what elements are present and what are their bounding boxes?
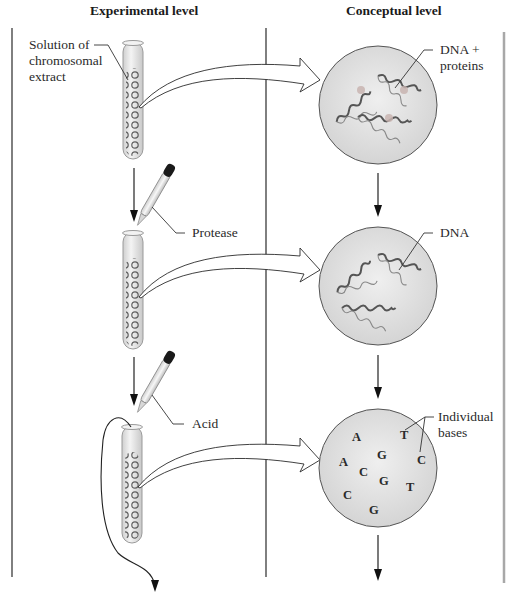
base-letter: G [377, 448, 387, 463]
base-letter: G [369, 503, 379, 518]
label-protease: Protease [192, 225, 238, 240]
base-letter: T [400, 428, 408, 443]
down-arrow-concept-3 [374, 535, 382, 581]
base-letter: A [339, 455, 348, 470]
concept-circle-dna-proteins [319, 46, 437, 164]
label-dna-proteins-line-1: DNA + [440, 42, 480, 57]
curved-arrow-3 [138, 438, 320, 488]
test-tube-3 [122, 425, 143, 544]
diagram-graphics [0, 0, 519, 597]
down-arrow-concept-1 [374, 173, 382, 217]
down-arrow-exp-2 [130, 357, 138, 406]
dropper-acid [134, 349, 177, 414]
label-dna: DNA [440, 225, 469, 240]
base-letter: C [417, 453, 426, 468]
test-tube-1 [123, 41, 144, 160]
diagram-canvas: Experimental level Conceptual level Solu… [0, 0, 519, 597]
label-solution-line-3: extract [29, 69, 66, 84]
curved-arrow-1 [139, 58, 320, 108]
header-conceptual-level: Conceptual level [346, 3, 442, 19]
down-arrow-exp-1 [130, 168, 138, 222]
label-dna-proteins-line-2: proteins [440, 58, 484, 73]
down-arrow-concept-2 [374, 355, 382, 399]
header-experimental-level: Experimental level [90, 3, 198, 19]
label-solution-line-2: chromosomal [29, 53, 103, 68]
base-letter: G [379, 474, 389, 489]
label-solution-line-1: Solution of [29, 37, 89, 52]
label-individual-bases-line-2: bases [438, 425, 467, 440]
label-individual-bases-line-1: Individual [438, 409, 494, 424]
base-letter: C [343, 488, 352, 503]
test-tube-2 [123, 231, 144, 350]
dropper-protease [134, 162, 177, 227]
curved-arrow-2 [139, 248, 320, 298]
concept-circle-dna [319, 227, 437, 345]
base-letter: T [406, 480, 414, 495]
base-letter: C [359, 465, 368, 480]
base-letter: A [352, 430, 361, 445]
label-acid: Acid [192, 416, 218, 431]
